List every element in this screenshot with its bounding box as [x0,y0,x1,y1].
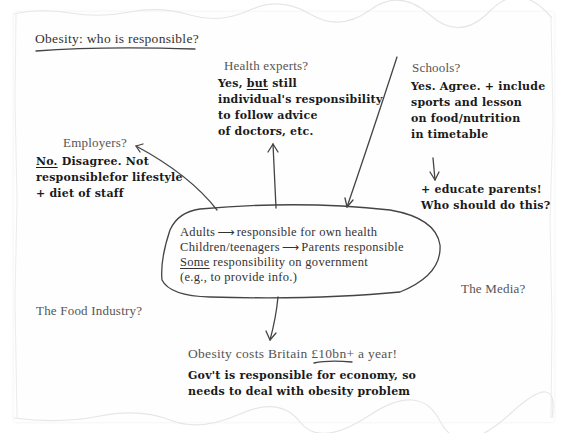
text-segment: Parents responsible [301,240,404,254]
underlined-word: but [247,77,268,90]
node-employers-body: No. Disagree. Not responsiblefor lifesty… [36,154,183,202]
text-segment: Disagree. Not [58,155,149,168]
text-segment: still [268,77,297,90]
node-schools-heading: Schools? [412,60,461,76]
arrow-right-icon: ⟶ [217,225,235,240]
underlined-word: No. [36,155,58,168]
node-government-body: Gov't is responsible for economy, so nee… [188,368,416,400]
node-health-experts-body: Yes, but still individual's responsibili… [218,76,383,140]
text-line: Gov't is responsible for economy, so [188,368,416,384]
text-line: (e.g., to provide info.) [180,270,404,285]
text-line: + diet of staff [36,186,183,202]
text-segment: Adults [180,225,215,239]
text-line: in timetable [411,127,545,143]
node-health-experts-heading: Health experts? [224,58,308,74]
text-segment: responsibility on government [210,255,368,269]
text-line: Who should do this? [421,198,550,214]
node-media-heading: The Media? [461,281,525,297]
text-line: + educate parents! [421,182,550,198]
text-segment: responsible for own health [237,225,378,239]
arrow-right-icon: ⟶ [282,240,300,255]
text-segment: Yes, [218,77,247,90]
text-segment: Children/teenagers [180,240,280,254]
text-line: individual's responsibility [218,92,383,108]
node-schools-extra: + educate parents! Who should do this? [421,182,550,214]
text-segment: a year! [354,346,397,361]
node-government-heading: Obesity costs Britain £10bn+ a year! [188,346,397,362]
text-line: sports and lesson [411,95,545,111]
text-line: of doctors, etc. [218,124,383,140]
underlined-word: Some [180,255,210,269]
underlined-amount: £10bn+ [311,346,354,361]
node-employers-heading: Employers? [63,135,127,151]
text-line: responsiblefor lifestyle [36,170,183,186]
node-schools-body: Yes. Agree. + include sports and lesson … [411,79,545,143]
page-title: Obesity: who is responsible? [35,31,199,47]
text-line: on food/nutrition [411,111,545,127]
text-segment: Obesity costs Britain [188,346,311,361]
text-line: needs to deal with obesity problem [188,384,416,400]
node-food-industry-heading: The Food Industry? [36,303,142,319]
text-line: Yes. Agree. + include [411,79,545,95]
central-node: Adults⟶responsible for own health Childr… [180,225,404,285]
text-line: to follow advice [218,108,383,124]
